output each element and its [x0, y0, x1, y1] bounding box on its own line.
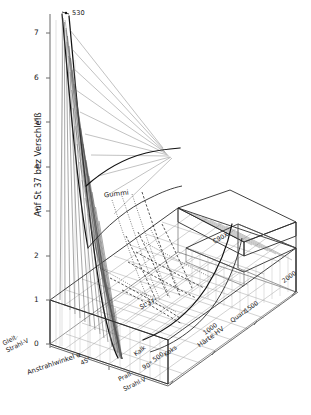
c90x-wall	[186, 224, 296, 272]
base-plane-grid	[50, 252, 296, 384]
peak-marker	[62, 12, 69, 14]
z-tick-3: 3	[34, 206, 39, 215]
gummi-plateau-curve	[86, 148, 180, 186]
wear-resistance-3d-chart: Auf St 37 bez Verschleiß 7 6 5 4 3 2 1 0…	[0, 0, 311, 415]
z-tick-0: 0	[34, 339, 39, 348]
peak-value-label: 530	[72, 9, 85, 17]
z-tick-1: 1	[34, 295, 39, 304]
gummi-surface	[60, 14, 182, 359]
z-tick-6: 6	[34, 73, 39, 82]
z-tick-7: 7	[34, 28, 39, 37]
z-tick-4: 4	[34, 162, 39, 171]
z-tick-2: 2	[34, 251, 39, 260]
z-tick-5: 5	[34, 117, 39, 126]
st37-contours	[100, 224, 212, 324]
z-axis	[46, 14, 50, 348]
